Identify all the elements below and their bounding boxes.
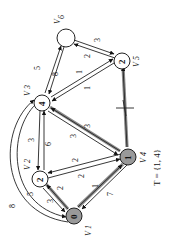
weight-label: 3 <box>46 199 55 203</box>
weight-label: 3 <box>27 138 36 142</box>
weight-label: 8 <box>8 204 17 208</box>
weight-label: 5 <box>33 66 42 70</box>
node-value: 2 <box>117 59 127 64</box>
weight-label: 2 <box>56 186 65 190</box>
node-v6: V 6 <box>53 15 75 47</box>
edge-v1-v4: 1 7 <box>78 164 127 209</box>
edge-v3-v5: 1 1 <box>51 59 114 101</box>
node-label: V <box>23 164 32 170</box>
edge-v4-v5-tree <box>116 66 134 147</box>
weight-label: 7 <box>106 192 115 196</box>
weight-label: 5 <box>26 192 35 196</box>
node-label: V <box>139 157 148 163</box>
weight-label: 1 <box>83 86 92 90</box>
edge-v1-v2: 2 3 <box>43 184 68 212</box>
node-label: V <box>23 90 32 96</box>
node-value: 2 <box>35 177 45 182</box>
node-value: 0 <box>69 214 79 219</box>
node-v4: 1 V 4 <box>120 149 148 165</box>
edge-v3-v6: 5 8 <box>33 46 64 94</box>
edge-v4-v3: 3 3 <box>48 107 120 155</box>
node-label-sub: 6 <box>57 15 66 19</box>
node-label-sub: 4 <box>139 152 148 156</box>
node-label: V <box>132 61 141 67</box>
node-v1: 0 V 1 <box>66 208 93 236</box>
weight-label: 2 <box>77 174 86 178</box>
node-label: V <box>84 230 93 236</box>
weight-label: 1 <box>91 184 100 188</box>
weight-label: 2 <box>83 54 92 58</box>
weight-label: 3 <box>93 38 102 42</box>
weight-label: 3 <box>69 134 78 138</box>
node-label-sub: 5 <box>132 56 141 60</box>
edge-v6-v5: 3 2 <box>74 38 115 58</box>
node-label-sub: 3 <box>23 85 32 90</box>
node-label-sub: 1 <box>84 225 93 229</box>
weight-label: 8 <box>51 72 60 76</box>
weight-label: 2 <box>71 158 80 162</box>
weight-label: 6 <box>44 142 53 146</box>
node-value: 1 <box>123 155 133 160</box>
node-v5: 2 V 5 <box>114 53 141 69</box>
weight-label: 1 <box>75 70 84 74</box>
weight-label: 3 <box>83 124 92 128</box>
graph-diagram: 5 8 3 2 1 1 3 3 3 6 2 <box>0 0 177 247</box>
node-value: 4 <box>37 101 47 106</box>
node-label-sub: 2 <box>23 159 32 163</box>
tree-set-label: T = {1, 4} <box>152 149 162 186</box>
